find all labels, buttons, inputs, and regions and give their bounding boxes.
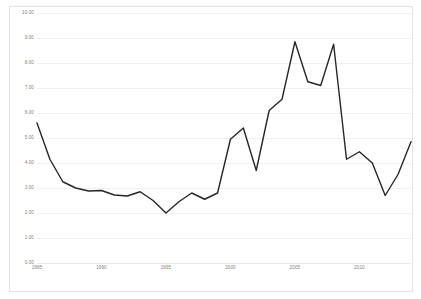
y-tick-label: 3.00 <box>25 186 34 191</box>
y-tick-label: 4.00 <box>25 161 34 166</box>
y-tick-label: 9.00 <box>25 36 34 41</box>
y-tick-label: 1.00 <box>25 236 34 241</box>
y-tick-label: 2.00 <box>25 211 34 216</box>
y-tick-label: 8.00 <box>25 61 34 66</box>
x-tick-label: 1985 <box>32 266 43 271</box>
y-tick-label: 7.00 <box>25 86 34 91</box>
gridline-0.00 <box>37 263 411 264</box>
line-series-svg <box>37 13 411 263</box>
x-axis: 198519901995200020052010 <box>37 266 411 280</box>
y-axis: 10.009.008.007.006.005.004.003.002.001.0… <box>9 13 34 263</box>
line-series-1 <box>37 42 411 213</box>
x-tick-label: 1995 <box>161 266 172 271</box>
x-tick-label: 2000 <box>225 266 236 271</box>
plot-area <box>37 13 411 263</box>
y-tick-label: 10.00 <box>22 11 34 16</box>
x-tick-label: 2010 <box>354 266 365 271</box>
x-tick-label: 2005 <box>290 266 301 271</box>
chart-container: 10.009.008.007.006.005.004.003.002.001.0… <box>0 0 421 299</box>
y-tick-label: 5.00 <box>25 136 34 141</box>
y-tick-label: 6.00 <box>25 111 34 116</box>
x-tick-label: 1990 <box>96 266 107 271</box>
